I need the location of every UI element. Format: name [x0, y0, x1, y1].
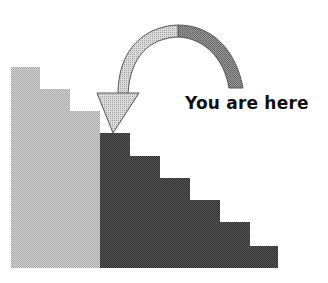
you-are-here-label: You are here — [185, 93, 309, 113]
completed-steps-shape — [11, 67, 100, 268]
you-are-here-arrow-icon — [97, 25, 243, 133]
staircase-diagram — [0, 0, 328, 283]
completed-steps — [11, 67, 100, 268]
remaining-steps-shape — [100, 133, 278, 268]
remaining-steps — [100, 133, 278, 268]
